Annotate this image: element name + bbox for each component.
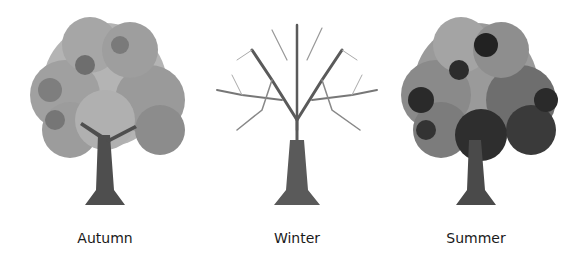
summer-tree-image [381,0,571,225]
trunk [274,140,320,205]
foliage [401,17,558,161]
autumn-tree-image [10,0,200,225]
winter-tree-image [202,0,392,225]
summer-label: Summer [381,230,571,246]
autumn-label: Autumn [10,230,200,246]
winter-label: Winter [202,230,392,246]
